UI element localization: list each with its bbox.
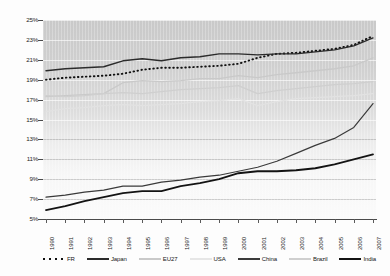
x-tick-label: 1992 [87,237,93,250]
y-tick-label: 9% [2,176,38,182]
y-tick-label: 11% [2,156,38,162]
chart-legend: FRJapanEU27USAChinaBrazilIndia [43,256,376,262]
legend-label: Japan [111,256,127,262]
x-tick-mark [104,219,105,223]
chart-title: figure 1: Electricity Share on final Ene… [43,217,376,219]
x-tick-mark [200,219,201,223]
legend-swatch-icon [238,258,260,260]
series-line-eu27 [46,58,373,97]
y-tick-mark [38,60,43,61]
legend-swatch-icon [289,258,311,259]
y-tick-mark [38,20,43,21]
series-line-usa [46,94,373,112]
y-tick-mark [38,80,43,81]
x-tick-label: 1994 [126,237,132,250]
y-tick-label: 15% [2,117,38,123]
y-tick-label: 7% [2,196,38,202]
y-tick-label: 25% [2,17,38,23]
x-tick-mark [161,219,162,223]
legend-label: USA [214,256,226,262]
x-tick-mark [142,219,143,223]
legend-item-japan[interactable]: Japan [87,256,127,262]
x-tick-label: 1991 [68,237,74,250]
series-lines [43,20,376,219]
y-tick-mark [38,120,43,121]
series-line-brazil [46,82,373,97]
x-tick-mark [354,219,355,223]
x-tick-label: 2006 [357,237,363,250]
x-tick-mark [373,219,374,223]
legend-label: India [363,256,376,262]
legend-label: China [262,256,277,262]
y-tick-label: 21% [2,57,38,63]
series-line-india [46,154,373,210]
y-tick-label: 19% [2,77,38,83]
x-tick-label: 1999 [222,237,228,250]
y-tick-label: 13% [2,136,38,142]
series-line-china [46,104,373,198]
legend-swatch-icon [190,258,212,259]
legend-swatch-icon [43,258,65,260]
x-tick-label: 2007 [376,237,382,250]
x-tick-label: 1993 [107,237,113,250]
x-tick-mark [296,219,297,223]
y-tick-mark [38,100,43,101]
y-tick-label: 23% [2,37,38,43]
x-tick-mark [277,219,278,223]
legend-swatch-icon [339,258,361,260]
legend-item-china[interactable]: China [238,256,277,262]
legend-item-fr[interactable]: FR [43,256,75,262]
x-tick-mark [46,219,47,223]
x-tick-mark [84,219,85,223]
y-axis-labels: 5%7%9%11%13%15%17%19%21%23%25% [0,0,38,276]
figure-electricity-share: 5%7%9%11%13%15%17%19%21%23%25% figure 1:… [0,0,390,276]
x-tick-label: 2002 [280,237,286,250]
x-tick-mark [123,219,124,223]
series-line-fr [46,36,373,80]
legend-swatch-icon [87,258,109,260]
legend-label: EU27 [163,256,178,262]
legend-swatch-icon [139,258,161,259]
x-tick-label: 1995 [145,237,151,250]
y-tick-mark [38,199,43,200]
legend-item-eu27[interactable]: EU27 [139,256,178,262]
x-tick-label: 1990 [49,237,55,250]
legend-label: Brazil [313,256,327,262]
y-tick-label: 17% [2,97,38,103]
x-axis-line [43,219,377,220]
x-tick-mark [181,219,182,223]
x-tick-label: 2004 [318,237,324,250]
x-tick-label: 1996 [164,237,170,250]
x-tick-label: 2000 [241,237,247,250]
legend-item-india[interactable]: India [339,256,376,262]
x-tick-mark [335,219,336,223]
y-tick-mark [38,219,43,220]
x-tick-label: 2005 [338,237,344,250]
y-tick-mark [38,159,43,160]
y-tick-mark [38,139,43,140]
x-tick-mark [65,219,66,223]
legend-item-brazil[interactable]: Brazil [289,256,327,262]
x-tick-label: 2003 [299,237,305,250]
plot-area: figure 1: Electricity Share on final Ene… [43,20,376,219]
y-tick-mark [38,179,43,180]
y-tick-mark [38,40,43,41]
legend-label: FR [67,256,75,262]
x-tick-mark [219,219,220,223]
x-tick-label: 2001 [261,237,267,250]
y-tick-label: 5% [2,216,38,222]
x-tick-mark [258,219,259,223]
legend-item-usa[interactable]: USA [190,256,226,262]
x-tick-mark [238,219,239,223]
x-tick-label: 1997 [184,237,190,250]
x-tick-label: 1998 [203,237,209,250]
x-tick-mark [315,219,316,223]
